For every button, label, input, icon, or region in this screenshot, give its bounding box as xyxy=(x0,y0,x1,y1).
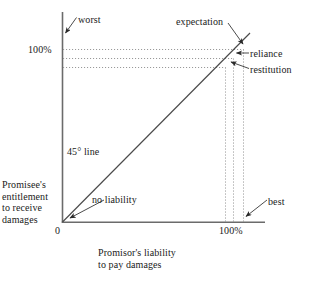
damages-diagram: worst expectation reliance restitution 4… xyxy=(0,0,313,286)
annotation-label-forty-five-line: 45° line xyxy=(67,146,99,158)
arrow-expectation xyxy=(228,23,243,44)
diagram-canvas xyxy=(0,0,313,286)
horizontal-dotted-lines xyxy=(63,50,244,68)
annotation-label-expectation: expectation xyxy=(176,16,223,28)
x-axis-title-line-1: Promisor's liability xyxy=(98,247,228,259)
x-axis-title-line-2: to pay damages xyxy=(98,259,228,271)
y-axis-title-line-3: to receive xyxy=(2,202,60,214)
y-axis-title-line-1: Promisee's xyxy=(2,179,60,191)
x-axis-tick-label-origin: 0 xyxy=(55,225,60,237)
x-axis-tick-label-100: 100% xyxy=(219,225,243,237)
y-axis-title: Promisee's entitlement to receive damage… xyxy=(2,179,60,225)
forty-five-degree-line xyxy=(63,33,251,222)
annotation-label-reliance: reliance xyxy=(250,48,282,60)
y-axis-title-line-4: damages xyxy=(2,214,60,226)
axis-group xyxy=(62,12,265,223)
annotation-label-no-liability: no liability xyxy=(92,194,137,206)
arrow-worst xyxy=(66,18,77,34)
y-axis-title-line-2: entitlement xyxy=(2,191,60,203)
x-axis-title: Promisor's liability to pay damages xyxy=(98,247,228,270)
arrow-best xyxy=(246,200,267,217)
annotation-label-worst: worst xyxy=(78,14,101,26)
vertical-dotted-lines xyxy=(226,50,244,222)
annotation-label-restitution: restitution xyxy=(250,64,292,76)
annotation-label-best: best xyxy=(268,196,285,208)
y-axis-tick-label-100: 100% xyxy=(28,44,52,56)
